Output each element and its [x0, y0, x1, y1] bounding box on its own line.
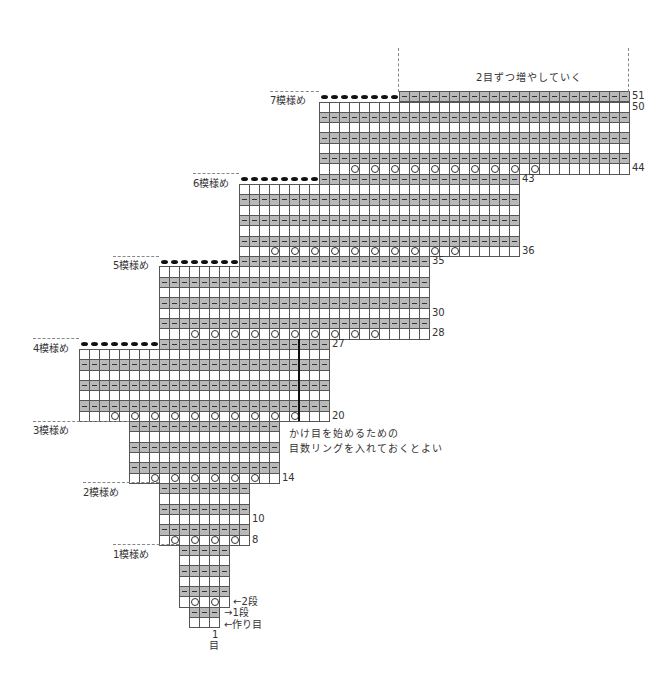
purl-dash-icon [402, 261, 407, 262]
purl-dash-icon [212, 426, 217, 427]
purl-dash-icon [622, 96, 627, 97]
purl-dash-icon [222, 488, 227, 489]
bind-off-dot-icon [391, 95, 398, 99]
bind-off-dot-icon [271, 177, 278, 181]
purl-dash-icon [252, 426, 257, 427]
row-number-10: 10 [252, 513, 265, 524]
purl-dash-icon [282, 261, 287, 262]
purl-cell [419, 318, 430, 329]
purl-dash-icon [252, 303, 257, 304]
purl-dash-icon [372, 303, 377, 304]
purl-dash-icon [362, 179, 367, 180]
purl-dash-icon [512, 199, 517, 200]
row-number-28: 28 [432, 327, 445, 338]
stitch-number-label: 1 [212, 629, 218, 640]
purl-dash-icon [382, 323, 387, 324]
yarn-over-circle-icon [511, 165, 519, 173]
purl-dash-icon [582, 138, 587, 139]
bind-off-dot-icon [81, 342, 88, 346]
purl-dash-icon [172, 303, 177, 304]
purl-dash-icon [332, 282, 337, 283]
purl-dash-icon [342, 282, 347, 283]
knit-cell [509, 184, 520, 195]
purl-dash-icon [192, 529, 197, 530]
purl-dash-icon [482, 179, 487, 180]
purl-dash-icon [332, 199, 337, 200]
purl-dash-icon [422, 323, 427, 324]
purl-dash-icon [422, 282, 427, 283]
purl-dash-icon [512, 117, 517, 118]
purl-dash-icon [182, 571, 187, 572]
purl-dash-icon [172, 364, 177, 365]
purl-dash-icon [212, 612, 217, 613]
purl-dash-icon [382, 199, 387, 200]
yarn-over-circle-icon [311, 247, 319, 255]
purl-dash-icon [452, 199, 457, 200]
yarn-over-circle-icon [231, 474, 239, 482]
purl-dash-icon [182, 509, 187, 510]
purl-dash-icon [202, 385, 207, 386]
purl-dash-icon [332, 323, 337, 324]
purl-cell [619, 112, 630, 123]
purl-dash-icon [302, 323, 307, 324]
purl-dash-icon [192, 303, 197, 304]
purl-cell [219, 586, 230, 597]
purl-dash-icon [332, 241, 337, 242]
purl-dash-icon [202, 529, 207, 530]
purl-dash-icon [402, 220, 407, 221]
purl-dash-icon [432, 138, 437, 139]
purl-dash-icon [252, 385, 257, 386]
purl-dash-icon [192, 571, 197, 572]
yarn-over-circle-icon [371, 330, 379, 338]
purl-dash-icon [412, 158, 417, 159]
purl-dash-icon [422, 261, 427, 262]
purl-dash-icon [242, 241, 247, 242]
purl-dash-icon [472, 96, 477, 97]
purl-dash-icon [142, 467, 147, 468]
purl-dash-icon [182, 529, 187, 530]
purl-dash-icon [282, 323, 287, 324]
purl-dash-icon [512, 158, 517, 159]
purl-dash-icon [212, 509, 217, 510]
purl-dash-icon [252, 344, 257, 345]
purl-dash-icon [182, 550, 187, 551]
yarn-over-circle-icon [111, 412, 119, 420]
purl-dash-icon [282, 199, 287, 200]
purl-dash-icon [302, 385, 307, 386]
purl-dash-icon [212, 323, 217, 324]
yarn-over-circle-icon [191, 474, 199, 482]
purl-dash-icon [402, 282, 407, 283]
purl-cell [319, 359, 330, 370]
bind-off-dot-icon [261, 177, 268, 181]
purl-dash-icon [442, 220, 447, 221]
purl-dash-icon [152, 447, 157, 448]
purl-dash-icon [222, 364, 227, 365]
purl-dash-icon [412, 241, 417, 242]
purl-cell [419, 256, 430, 267]
knit-cell [269, 473, 280, 484]
bind-off-dot-icon [251, 177, 258, 181]
purl-dash-icon [502, 158, 507, 159]
bind-off-dot-icon [281, 177, 288, 181]
yarn-over-circle-icon [211, 598, 219, 606]
purl-dash-icon [362, 220, 367, 221]
yarn-over-circle-icon [451, 247, 459, 255]
purl-dash-icon [222, 467, 227, 468]
yarn-over-circle-icon [171, 412, 179, 420]
purl-dash-icon [422, 158, 427, 159]
purl-dash-icon [312, 364, 317, 365]
purl-dash-icon [262, 199, 267, 200]
purl-dash-icon [432, 158, 437, 159]
purl-dash-icon [452, 220, 457, 221]
purl-dash-icon [272, 364, 277, 365]
bind-off-dot-icon [121, 342, 128, 346]
purl-dash-icon [422, 138, 427, 139]
purl-dash-icon [462, 117, 467, 118]
purl-dash-icon [142, 447, 147, 448]
purl-dash-icon [232, 467, 237, 468]
purl-dash-icon [342, 199, 347, 200]
purl-dash-icon [262, 261, 267, 262]
purl-dash-icon [292, 385, 297, 386]
purl-dash-icon [262, 406, 267, 407]
purl-cell [239, 483, 250, 494]
